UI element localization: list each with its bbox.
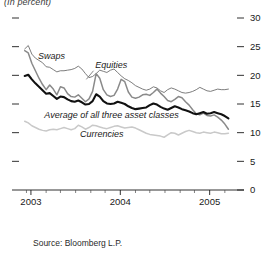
source-note: Source: Bloomberg L.P. <box>33 238 122 248</box>
series-label-currencies: Currencies <box>80 129 124 139</box>
y-tick-label: 15 <box>250 98 261 109</box>
equities-leader-line <box>86 71 93 80</box>
x-tick-label: 2004 <box>110 196 131 207</box>
series-label-equities: Equities <box>95 60 128 70</box>
y-tick-label: 0 <box>250 184 255 195</box>
unit-note: (In percent) <box>4 0 51 7</box>
y-tick-label: 20 <box>250 70 261 81</box>
figure-panel: (In percent) 051015202530200320042005Swa… <box>0 0 274 255</box>
plot-area: 051015202530200320042005SwapsEquitiesAve… <box>0 10 274 210</box>
series-label-average: Average of all three asset classes <box>43 110 179 120</box>
series-line-currencies <box>25 121 229 137</box>
y-tick-label: 25 <box>250 41 261 52</box>
x-tick-label: 2005 <box>199 196 220 207</box>
y-tick-label: 10 <box>250 127 261 138</box>
y-tick-label: 30 <box>250 12 261 23</box>
line-chart: 051015202530200320042005SwapsEquitiesAve… <box>0 10 274 210</box>
series-label-swaps: Swaps <box>38 51 66 61</box>
y-tick-label: 5 <box>250 156 255 167</box>
x-tick-label: 2003 <box>20 196 41 207</box>
